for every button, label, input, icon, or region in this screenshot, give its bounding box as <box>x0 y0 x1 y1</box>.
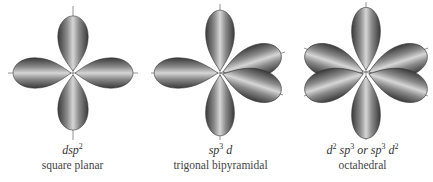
orbital-lobe-down <box>206 75 235 136</box>
hybridization-formula-dsp2: dsp2 <box>0 142 145 158</box>
geometry-label-octahedral: octahedral <box>290 159 433 171</box>
octahedral-diagram <box>288 0 433 140</box>
formula-superscript: 2 <box>395 142 399 151</box>
formula-part: sp <box>336 143 350 157</box>
orbital-lobe-up <box>352 7 381 70</box>
orbital-lobe-left <box>154 58 218 88</box>
hybridization-formula-sp3d: sp3 d <box>148 142 293 158</box>
formula-part: d <box>386 143 395 157</box>
orbital-lobe-left <box>13 58 71 88</box>
orbital-lobe-up <box>58 16 88 71</box>
geometry-label-trigonal-bipyramidal: trigonal bipyramidal <box>148 159 293 171</box>
formula-part: dsp <box>62 143 79 157</box>
geometry-label-square-planar: square planar <box>0 159 145 171</box>
orbital-lobe-right <box>75 58 133 88</box>
orbital-lobe-down <box>352 76 381 139</box>
formula-part: sp <box>209 143 220 157</box>
orbital-lobe-up <box>206 10 235 71</box>
hybridization-formula-d2sp3-or-sp3d2: d2 sp3 or sp3 d2 <box>290 142 433 158</box>
orbital-lobe-down <box>58 75 88 130</box>
formula-part: or sp <box>354 143 381 157</box>
trigonal-bipyramidal-diagram <box>145 0 290 140</box>
formula-superscript: 2 <box>79 142 83 151</box>
square-planar-diagram <box>0 0 145 140</box>
formula-part: d <box>223 143 232 157</box>
